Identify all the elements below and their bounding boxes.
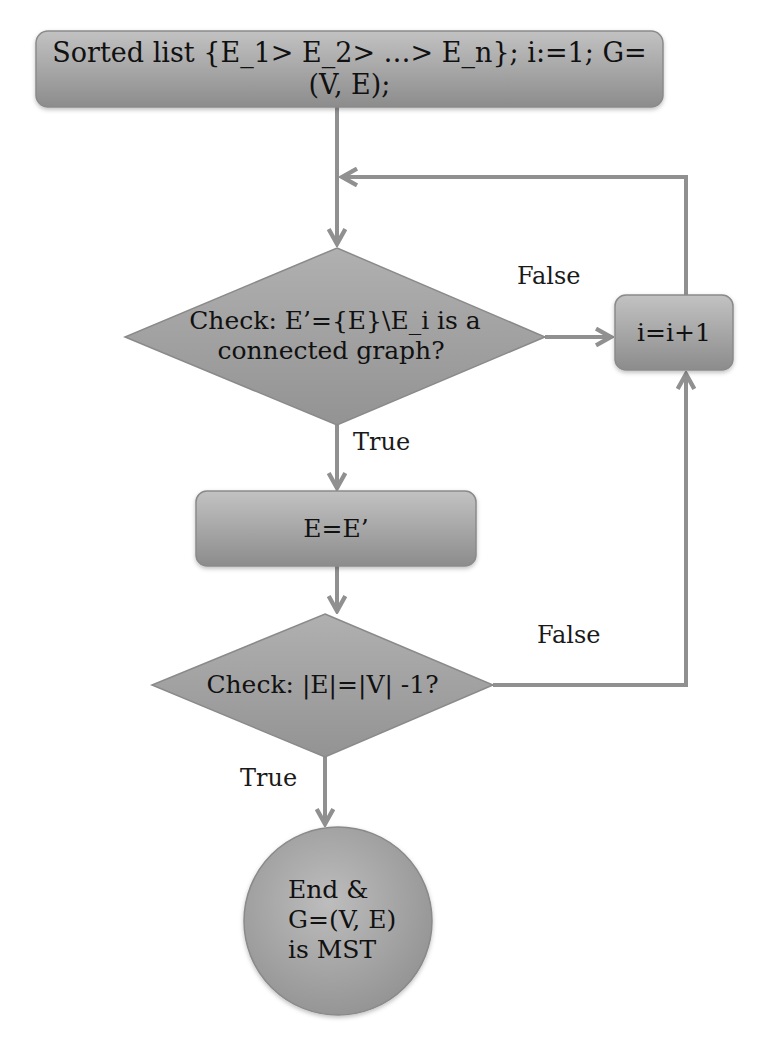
check-connected-line2: connected graph?	[217, 336, 444, 366]
edge-label-false-2: False	[537, 621, 601, 649]
start-node-text: Sorted list {E_1> E_2> …> E_n}; i:=1; G=…	[36, 31, 663, 107]
increment-node-label: i=i+1	[637, 318, 711, 348]
end-node-text: End & G=(V, E) is MST	[288, 855, 408, 985]
edge-label-false-1: False	[517, 262, 581, 290]
check-count-text: Check: |E|=|V| -1?	[152, 660, 493, 710]
edge-label-true-1: True	[353, 428, 410, 456]
edge-label-true-2: True	[240, 764, 297, 792]
check-count-label: Check: |E|=|V| -1?	[206, 670, 438, 700]
end-node-line2: G=(V, E)	[288, 905, 396, 935]
assign-node-text: E=E’	[196, 491, 476, 566]
start-node-label: Sorted list {E_1> E_2> …> E_n}; i:=1; G=…	[36, 37, 663, 102]
check-connected-line1: Check: E’={E}\E_i is a	[189, 306, 481, 336]
end-node-line3: is MST	[288, 935, 376, 965]
assign-node-label: E=E’	[303, 514, 368, 544]
increment-node-text: i=i+1	[615, 295, 733, 370]
check-connected-text: Check: E’={E}\E_i is a connected graph?	[125, 290, 545, 382]
end-node-line1: End &	[288, 875, 369, 905]
